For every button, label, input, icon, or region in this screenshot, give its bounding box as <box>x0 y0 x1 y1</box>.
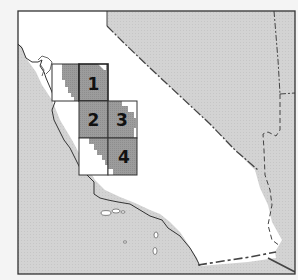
california-map: 1 2 3 4 <box>0 0 298 280</box>
cell-label-2: 2 <box>88 110 100 130</box>
cell-label-4: 4 <box>118 147 130 167</box>
cell-label-3: 3 <box>116 110 128 130</box>
grid-cell-4[interactable]: 4 <box>108 138 137 175</box>
cell-label-1: 1 <box>88 74 100 94</box>
grid-cell-1[interactable]: 1 <box>79 64 108 101</box>
grid-cell-unlabeled[interactable] <box>52 64 79 101</box>
grid-cell-2[interactable]: 2 <box>79 101 108 138</box>
grid-cell-3[interactable]: 3 <box>108 101 137 138</box>
grid-cell-unlabeled-south[interactable] <box>79 138 108 175</box>
